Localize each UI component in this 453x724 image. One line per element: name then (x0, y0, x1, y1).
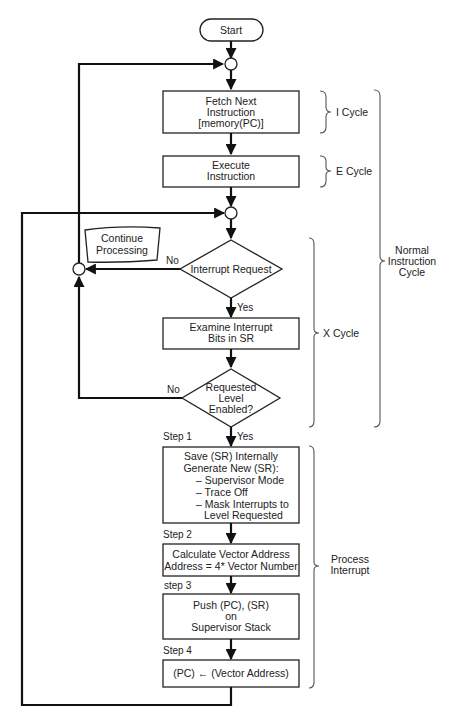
svg-text:Level Requested: Level Requested (204, 509, 283, 521)
x-cycle-brace: X Cycle (309, 238, 359, 427)
svg-text:I Cycle: I Cycle (336, 106, 368, 118)
no-label-2: No (167, 384, 180, 395)
flowchart: Start Fetch Next Instruction [memory(PC)… (0, 0, 453, 724)
svg-text:E Cycle: E Cycle (336, 165, 372, 177)
svg-text:Supervisor Stack: Supervisor Stack (191, 621, 271, 633)
svg-text:Instruction: Instruction (207, 170, 256, 182)
svg-text:– Trace Off: – Trace Off (196, 486, 248, 498)
svg-text:Cycle: Cycle (399, 266, 425, 278)
svg-text:– Supervisor Mode: – Supervisor Mode (196, 474, 284, 486)
svg-text:Generate New (SR):: Generate New (SR): (183, 462, 278, 474)
process-interrupt-brace: Process Interrupt (309, 446, 370, 688)
yes-label-2: Yes (237, 431, 253, 442)
svg-text:Interrupt Request: Interrupt Request (190, 263, 271, 275)
connector-1 (225, 58, 237, 70)
svg-text:Address = 4* Vector Number: Address = 4* Vector Number (164, 560, 298, 572)
execute-box: Execute Instruction (163, 156, 299, 187)
svg-text:Processing: Processing (96, 244, 148, 256)
step4-box: (PC) ← (Vector Address) (163, 660, 299, 687)
fetch-box: Fetch Next Instruction [memory(PC)] (163, 91, 299, 133)
svg-text:Bits in SR: Bits in SR (208, 332, 255, 344)
svg-text:Continue: Continue (101, 232, 143, 244)
level-enabled-decision: Requested Level Enabled? (182, 369, 280, 427)
svg-text:Calculate Vector Address: Calculate Vector Address (172, 548, 289, 560)
step2-box: Calculate Vector Address Address = 4* Ve… (163, 544, 299, 576)
continue-processing-note: Continue Processing (85, 227, 160, 262)
yes-label-1: Yes (237, 302, 253, 313)
e-cycle-brace: E Cycle (320, 156, 372, 187)
svg-text:X Cycle: X Cycle (323, 327, 359, 339)
svg-text:Enabled?: Enabled? (209, 403, 254, 415)
start-label: Start (220, 24, 242, 36)
connector-3 (73, 263, 85, 275)
svg-text:Interrupt: Interrupt (330, 564, 369, 576)
start-terminal: Start (200, 19, 263, 41)
step1-box: Save (SR) Internally Generate New (SR): … (163, 447, 299, 523)
step-4-label: Step 4 (163, 645, 192, 656)
step-1-label: Step 1 (163, 431, 192, 442)
examine-box: Examine Interrupt Bits in SR (163, 318, 299, 349)
step-2-label: Step 2 (163, 529, 192, 540)
step3-box: Push (PC), (SR) on Supervisor Stack (163, 594, 299, 639)
connector-2 (225, 207, 237, 219)
i-cycle-brace: I Cycle (320, 91, 368, 133)
svg-text:[memory(PC)]: [memory(PC)] (198, 117, 263, 129)
svg-text:Save (SR) Internally: Save (SR) Internally (184, 450, 279, 462)
no-label-1: No (166, 255, 179, 266)
svg-text:(PC) ← (Vector Address): (PC) ← (Vector Address) (173, 667, 289, 679)
normal-instruction-cycle-brace: Normal Instruction Cycle (374, 90, 436, 427)
interrupt-request-decision: Interrupt Request (180, 240, 282, 298)
step-3-label: step 3 (164, 580, 192, 591)
